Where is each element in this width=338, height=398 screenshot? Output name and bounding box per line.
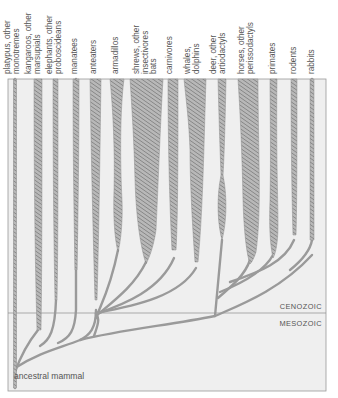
label-primates: primates: [268, 43, 277, 74]
label-anteaters: anteaters: [89, 40, 98, 74]
root-label: ancestral mammal: [14, 371, 84, 381]
label-platypus-2: monotremes: [12, 28, 21, 74]
taxon-labels: platypus, other monotremes kangaroos, ot…: [3, 12, 316, 75]
label-rabbits: rabbits: [307, 49, 316, 74]
label-elephants-2: proboscideans: [54, 21, 63, 74]
label-armadillos: armadillos: [111, 37, 120, 74]
era-label-mesozoic: MESOZOIC: [279, 319, 322, 328]
label-shrews-3: bats: [149, 59, 158, 74]
label-whales-2: dolphins: [192, 44, 201, 75]
era-label-cenozoic: CENOZOIC: [280, 302, 322, 311]
label-rodents: rodents: [289, 47, 298, 74]
mammal-phylogeny-diagram: CENOZOIC MESOZOIC: [0, 0, 338, 398]
label-deer-2: artiodactyls: [218, 33, 227, 74]
lineage-primates: [270, 79, 278, 258]
label-horses-2: perissodactyls: [246, 22, 255, 74]
lineage-rabbits: [310, 79, 314, 240]
label-carnivores: carnivores: [165, 36, 174, 74]
lineage-platypus: [14, 79, 17, 388]
label-kangaroos-2: marsupials: [33, 34, 42, 74]
label-manatees: manatees: [70, 38, 79, 74]
